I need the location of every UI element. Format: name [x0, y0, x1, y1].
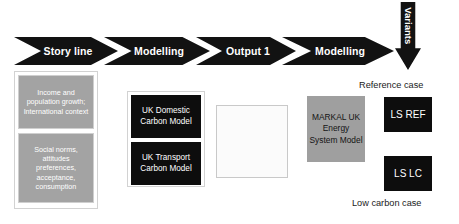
process-step-label: Story line: [38, 46, 95, 57]
process-step-modelling-2[interactable]: Modelling: [282, 37, 394, 65]
process-step-label: Modelling: [128, 46, 186, 57]
process-step-label: Modelling: [309, 46, 367, 57]
process-step-label: Output 1: [220, 46, 272, 57]
case-box-ls-lc[interactable]: LS LC: [384, 156, 432, 191]
scenario-card-social-norms[interactable]: Social norms, attitudes preferences, acc…: [18, 133, 94, 203]
model-card-uk-domestic-carbon[interactable]: UK Domestic Carbon Model: [131, 95, 201, 138]
scenario-card-text: Social norms, attitudes preferences, acc…: [22, 145, 90, 191]
process-step-modelling-1[interactable]: Modelling: [104, 37, 210, 65]
carbon-models-panel: UK Domestic Carbon Model UK Transport Ca…: [127, 91, 205, 187]
model-card-uk-transport-carbon[interactable]: UK Transport Carbon Model: [131, 142, 201, 185]
reference-case-caption: Reference case: [359, 81, 423, 90]
scenario-card-text: Income and population growth; Internatio…: [22, 88, 90, 116]
model-card-text: UK Transport Carbon Model: [133, 153, 199, 175]
output-placeholder-box[interactable]: [216, 105, 288, 178]
variants-down-arrow-icon: [395, 2, 421, 70]
case-box-label: LS LC: [394, 168, 422, 179]
case-box-ls-ref[interactable]: LS REF: [384, 97, 432, 132]
process-flow-diagram: Story line Modelling Output 1 Modelling …: [0, 0, 459, 224]
model-card-markal-uk-energy-system[interactable]: MARKAL UK Energy System Model: [307, 96, 365, 162]
model-card-text: UK Domestic Carbon Model: [133, 106, 199, 128]
scenario-card-income-population[interactable]: Income and population growth; Internatio…: [18, 75, 94, 129]
low-carbon-case-caption: Low carbon case: [352, 199, 421, 208]
process-step-output-1[interactable]: Output 1: [196, 37, 296, 65]
case-box-label: LS REF: [390, 109, 425, 120]
process-step-story-line[interactable]: Story line: [14, 37, 118, 65]
scenario-inputs-panel: Income and population growth; Internatio…: [14, 71, 98, 209]
process-arrow-row: Story line Modelling Output 1 Modelling: [14, 37, 374, 65]
markal-card-text: MARKAL UK Energy System Model: [309, 112, 363, 146]
